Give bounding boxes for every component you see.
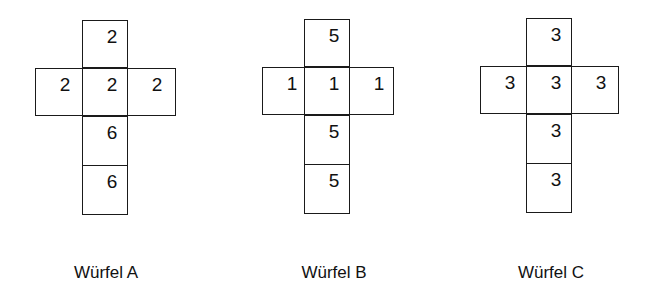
face-number: 3 — [503, 73, 517, 93]
face-below: 5 — [304, 115, 350, 165]
face-number: 2 — [150, 75, 164, 95]
face-number: 3 — [549, 170, 563, 190]
face-number: 3 — [594, 73, 608, 93]
face-left: 2 — [35, 68, 83, 116]
face-below: 6 — [82, 116, 128, 166]
face-right: 2 — [127, 68, 176, 116]
face-below: 3 — [526, 114, 572, 164]
face-bottom: 6 — [82, 165, 128, 215]
face-number: 3 — [549, 121, 563, 141]
face-bottom: 5 — [304, 164, 350, 214]
face-number: 3 — [549, 73, 563, 93]
face-top: 2 — [82, 20, 128, 68]
cube-label-c: Würfel C — [491, 262, 611, 284]
face-center: 2 — [82, 68, 128, 116]
face-right: 1 — [349, 67, 394, 115]
cube-label-b: Würfel B — [274, 262, 394, 284]
face-number: 1 — [285, 74, 299, 94]
face-number: 2 — [105, 27, 119, 47]
face-number: 1 — [372, 74, 386, 94]
face-number: 1 — [327, 74, 341, 94]
face-left: 1 — [262, 67, 306, 115]
face-bottom: 3 — [526, 163, 572, 213]
face-number: 2 — [58, 75, 72, 95]
face-number: 2 — [105, 75, 119, 95]
face-number: 6 — [105, 123, 119, 143]
face-right: 3 — [571, 66, 619, 114]
face-number: 3 — [549, 25, 563, 45]
face-top: 5 — [304, 19, 350, 67]
face-number: 5 — [327, 171, 341, 191]
face-top: 3 — [526, 18, 572, 66]
face-number: 5 — [327, 122, 341, 142]
face-number: 5 — [327, 26, 341, 46]
face-number: 6 — [105, 172, 119, 192]
cube-label-a: Würfel A — [46, 262, 166, 284]
face-center: 1 — [304, 67, 350, 115]
face-center: 3 — [526, 66, 572, 114]
face-left: 3 — [480, 66, 527, 114]
